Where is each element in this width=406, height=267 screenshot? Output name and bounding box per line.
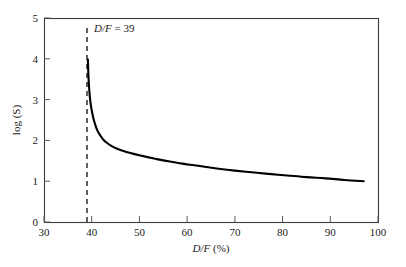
x-tick-label: 50: [134, 226, 146, 238]
x-tick-label: 80: [277, 226, 289, 238]
x-tick-label: 30: [39, 226, 51, 238]
x-tick-labels: 30 40 50 60 70 80 90 100: [39, 226, 387, 238]
y-tick-label: 0: [33, 216, 39, 228]
y-axis-title: log (S): [10, 105, 23, 136]
x-tick-label: 70: [229, 226, 241, 238]
asymptote-annotation-italic: D/F: [93, 22, 112, 34]
x-axis-title: D/F (%): [192, 242, 230, 255]
y-tick-label: 4: [33, 53, 39, 65]
asymptote-annotation-rest: = 39: [112, 22, 135, 34]
y-tick-label: 3: [33, 94, 39, 106]
chart-figure: 30 40 50 60 70 80 90 100 0 1 2 3 4 5 log…: [0, 0, 406, 267]
y-tick-label: 2: [33, 134, 39, 146]
x-axis-title-italic: D/F: [192, 242, 211, 254]
x-axis-ticks: [44, 216, 378, 222]
x-tick-label: 60: [182, 226, 194, 238]
y-tick-label: 5: [33, 12, 39, 24]
x-tick-label: 100: [370, 226, 387, 238]
x-tick-label: 90: [325, 226, 337, 238]
asymptote-annotation: D/F = 39: [93, 22, 135, 34]
chart-plot-area: 30 40 50 60 70 80 90 100 0 1 2 3 4 5 log…: [0, 0, 406, 267]
x-tick-label: 40: [86, 226, 98, 238]
y-tick-labels: 0 1 2 3 4 5: [33, 12, 39, 228]
data-series-curve: [88, 60, 364, 182]
y-tick-label: 1: [33, 175, 39, 187]
x-axis-title-rest: (%): [210, 242, 230, 255]
